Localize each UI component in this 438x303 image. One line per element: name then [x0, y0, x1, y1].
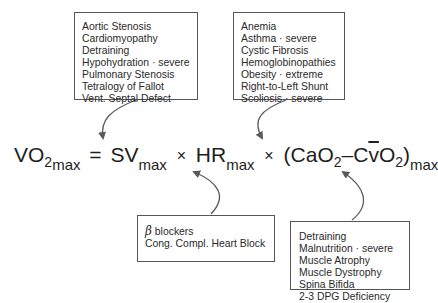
list-item: Right-to-Left Shunt: [241, 81, 344, 93]
list-item: Vent. Septal Defect: [82, 93, 197, 105]
vo2max-equation: VO2max = SVmax × HRmax × (CaO2–CvO2)max: [14, 143, 438, 167]
list-item: Asthma · severe: [241, 33, 344, 45]
multiply-sign: ×: [173, 147, 190, 164]
arrow-hr: [194, 172, 219, 214]
list-item: Scoliosis · severe: [241, 93, 344, 105]
heart-rate-term: HRmax: [196, 143, 255, 166]
list-item: Obesity · extreme: [241, 69, 344, 81]
avo2-difference-term: (CaO2–CvO2)max: [284, 143, 438, 166]
stroke-volume-term: SVmax: [110, 143, 166, 166]
list-item: Cystic Fibrosis: [241, 45, 344, 57]
list-item: 2-3 DPG Deficiency: [299, 291, 409, 303]
list-item: Tetralogy of Fallot: [82, 81, 197, 93]
avo2-difference-factors-box: Detraining Malnutrition · severe Muscle …: [290, 221, 410, 290]
arrow-cao2: [258, 100, 286, 138]
list-item: Muscle Dystrophy: [299, 267, 409, 279]
list-item: Aortic Stenosis: [82, 21, 197, 33]
list-item: Cong. Compl. Heart Block: [145, 238, 274, 250]
list-item: Spina Bifida: [299, 279, 409, 291]
list-item: Hemoglobinopathies: [241, 57, 344, 69]
stroke-volume-factors-box: Aortic Stenosis Cardiomyopathy Detrainin…: [74, 12, 198, 100]
list-item: β blockers: [145, 225, 274, 238]
arrow-avo2: [343, 172, 364, 220]
list-item: Anemia: [241, 21, 344, 33]
arrow-sv: [102, 100, 136, 138]
list-item: Hypohydration · severe: [82, 57, 197, 69]
heart-rate-factors-box: β blockers Cong. Compl. Heart Block: [137, 215, 275, 262]
list-item: Muscle Atrophy: [299, 255, 409, 267]
list-item: Cardiomyopathy: [82, 33, 197, 45]
multiply-sign: ×: [260, 147, 277, 164]
list-item: Malnutrition · severe: [299, 243, 409, 255]
list-item: Detraining: [299, 231, 409, 243]
beta-symbol: β: [145, 224, 152, 238]
list-item: Pulmonary Stenosis: [82, 69, 197, 81]
list-item: Detraining: [82, 45, 197, 57]
equals-sign: =: [86, 143, 104, 166]
arterial-o2-factors-box: Anemia Asthma · severe Cystic Fibrosis H…: [233, 12, 345, 100]
vo2-term: VO2max: [14, 143, 80, 166]
